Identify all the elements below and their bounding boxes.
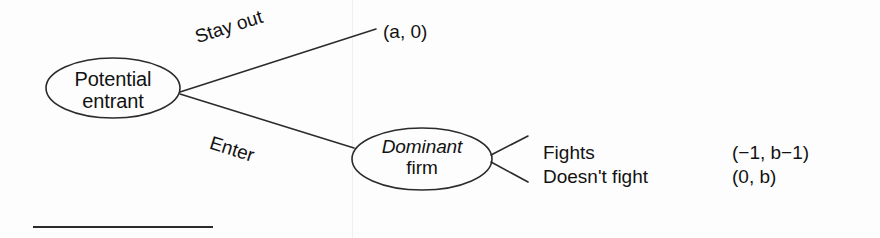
outcome-label-fights: Fights bbox=[543, 142, 595, 164]
game-tree-graphics bbox=[0, 0, 880, 238]
footnote-separator-rule bbox=[33, 226, 213, 228]
edge-line-doesnt-fight bbox=[491, 162, 528, 182]
payoff-doesnt-fight: (0, b) bbox=[732, 166, 776, 188]
outcome-label-doesnt-fight: Doesn't fight bbox=[543, 166, 648, 188]
edge-line-enter bbox=[180, 94, 354, 148]
node-label-dominant-firm: Dominant firm bbox=[352, 136, 492, 179]
node-label-line2: firm bbox=[352, 157, 492, 178]
game-tree-figure: Potential entrant Dominant firm Stay out… bbox=[0, 0, 880, 238]
node-label-line1: Dominant bbox=[352, 136, 492, 157]
payoff-stay-out: (a, 0) bbox=[383, 21, 427, 43]
payoff-fights: (−1, b−1) bbox=[732, 142, 809, 164]
edge-line-fights bbox=[491, 136, 528, 155]
node-label-line1: Potential bbox=[46, 68, 180, 90]
node-label-line2: entrant bbox=[46, 90, 180, 112]
node-label-potential-entrant: Potential entrant bbox=[46, 68, 180, 113]
